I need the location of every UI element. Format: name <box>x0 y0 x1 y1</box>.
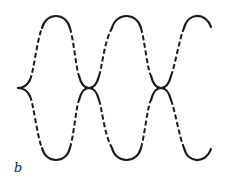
wave-diagram <box>0 0 225 182</box>
lower-curve <box>18 88 211 160</box>
upper-curve <box>18 16 211 88</box>
panel-label: b <box>14 160 22 175</box>
